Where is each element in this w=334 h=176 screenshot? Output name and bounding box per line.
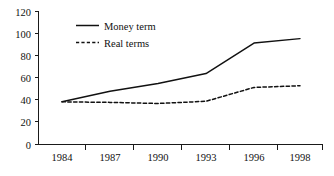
legend-label-real-terms: Real terms	[104, 38, 149, 49]
y-label-20: 20	[21, 117, 32, 128]
x-label-1993: 1993	[196, 152, 217, 163]
chart-legend: Money term Real terms	[76, 21, 156, 49]
x-label-1998: 1998	[290, 152, 311, 163]
series-line-money-term	[62, 39, 300, 102]
y-axis-ticks	[35, 12, 39, 145]
x-label-1987: 1987	[100, 152, 121, 163]
x-axis-ticks	[86, 145, 323, 150]
y-label-80: 80	[21, 51, 32, 62]
x-label-1996: 1996	[244, 152, 265, 163]
y-label-120: 120	[15, 7, 31, 18]
legend-label-money-term: Money term	[104, 21, 156, 32]
line-chart: 120 100 80 60 40 20 0 1984 1987 1990 199…	[0, 0, 334, 176]
y-label-40: 40	[21, 95, 32, 106]
y-label-100: 100	[15, 29, 31, 40]
x-axis-labels: 1984 1987 1990 1993 1996 1998	[52, 152, 311, 163]
chart-container: 120 100 80 60 40 20 0 1984 1987 1990 199…	[0, 0, 334, 176]
x-label-1990: 1990	[148, 152, 169, 163]
x-label-1984: 1984	[52, 152, 74, 163]
y-axis-labels: 120 100 80 60 40 20 0	[15, 7, 31, 151]
y-label-0: 0	[26, 140, 31, 151]
y-label-60: 60	[21, 73, 32, 84]
